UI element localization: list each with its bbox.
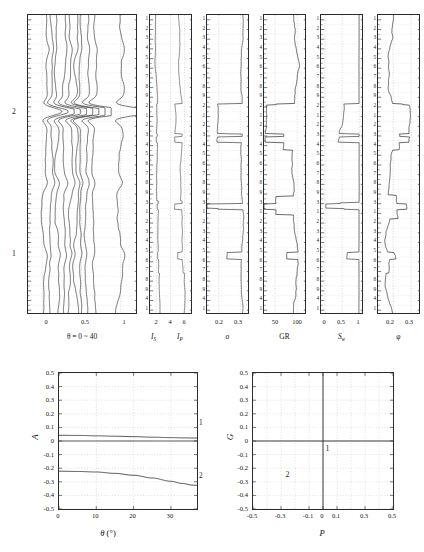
depth-tick-label: 9 xyxy=(145,190,148,195)
crossplot-annotation-2: 2 xyxy=(286,470,290,479)
sw-xtick-0: 0 xyxy=(322,318,325,325)
avo-amplitude-y-tick-label: 0.2 xyxy=(28,409,54,416)
depth-tick-label: 9 xyxy=(145,94,148,99)
depth-tick-label: 5 xyxy=(373,55,376,60)
depth-tick-label: 4 xyxy=(316,297,319,302)
porosity-curve xyxy=(378,15,420,314)
gamma-ray-track[interactable] xyxy=(263,14,306,314)
depth-tick-label: 8 xyxy=(373,278,376,283)
depth-tick-label: 2 xyxy=(202,26,205,31)
depth-tick-label: 7 xyxy=(316,74,319,79)
depth-tick-label: 9 xyxy=(202,190,205,195)
depth-tick-label: 6 xyxy=(259,161,262,166)
poisson-ratio-plot-box xyxy=(206,14,249,314)
depth-tick-label: 2 xyxy=(259,123,262,128)
depth-tick-label: 4 xyxy=(145,142,148,147)
depth-tick-label: 3 xyxy=(373,36,376,41)
depth-tick-label: 2 xyxy=(145,103,148,108)
depth-tick-label: 4 xyxy=(259,45,262,50)
depth-tick-label: 8 xyxy=(316,278,319,283)
imp-xtick-2: 2 xyxy=(154,318,157,325)
depth-tick-label: 2 xyxy=(316,103,319,108)
avo-amplitude-y-axis-title: A xyxy=(30,434,40,440)
depth-tick-label: 6 xyxy=(373,258,376,263)
depth-tick-label: 7 xyxy=(373,268,376,273)
crossplot-y-axis-title: G xyxy=(225,434,235,441)
intercept-gradient-crossplot[interactable]: -0.5-0.4-0.3-0.2-0.100.10.20.30.40.5 -0.… xyxy=(212,362,424,552)
depth-tick-label: 5 xyxy=(259,152,262,157)
depth-tick-label: 8 xyxy=(373,181,376,186)
poisson-ratio-track[interactable] xyxy=(206,14,249,314)
depth-tick-label: 3 xyxy=(259,132,262,137)
crossplot-x-tick-label: -0.5 xyxy=(247,512,257,519)
depth-tick-label: 4 xyxy=(373,142,376,147)
gamma-ray-plot-box xyxy=(263,14,306,314)
depth-tick-label: 5 xyxy=(202,152,205,157)
depth-tick-label: 6 xyxy=(202,258,205,263)
depth-tick-label: 4 xyxy=(316,142,319,147)
depth-tick-label: 6 xyxy=(259,258,262,263)
depth-tick-label: 2 xyxy=(373,123,376,128)
depth-tick-label: 1 xyxy=(259,210,262,215)
gr-xtick-50: 50 xyxy=(272,318,278,325)
depth-tick-label: 3 xyxy=(145,200,148,205)
angle-gather-track[interactable] xyxy=(27,14,137,314)
gather-xtick-2: 1 xyxy=(122,318,125,325)
depth-tick-label: 4 xyxy=(202,45,205,50)
depth-tick-label: 3 xyxy=(202,132,205,137)
sw-xtick-1: 1 xyxy=(356,318,359,325)
avo-amplitude-x-axis-title: θ (°) xyxy=(100,528,116,538)
depth-tick-label: 2 xyxy=(373,26,376,31)
depth-tick-label: 7 xyxy=(145,268,148,273)
depth-tick-label: 4 xyxy=(145,297,148,302)
impedance-x-tick-labels: 2 4 6 xyxy=(149,318,192,328)
angle-gather-plot-box xyxy=(27,14,137,314)
depth-tick-label: 2 xyxy=(259,219,262,224)
depth-tick-label: 3 xyxy=(202,200,205,205)
impedance-track[interactable] xyxy=(149,14,192,314)
depth-tick-label: 2 xyxy=(316,123,319,128)
sw-xtick-05: 0.5 xyxy=(337,318,345,325)
depth-labels-sigma: 1234567892123456789312345678941 xyxy=(196,14,205,314)
angle-gather-caption-text: θ = 0 ~ 40 xyxy=(67,332,97,341)
depth-tick-label: 9 xyxy=(373,287,376,292)
depth-tick-label: 5 xyxy=(145,152,148,157)
depth-tick-label: 1 xyxy=(259,113,262,118)
depth-tick-label: 3 xyxy=(373,229,376,234)
avo-amplitude-x-tick-label: 20 xyxy=(129,512,136,519)
crossplot-y-tick-label: -0.2 xyxy=(222,464,248,471)
phi-xtick-03: 0.3 xyxy=(405,318,413,325)
avo-amplitude-x-tick-label: 0 xyxy=(56,512,59,519)
depth-tick-label: 3 xyxy=(373,132,376,137)
crossplot-x-tick-label: 0 xyxy=(320,512,323,519)
impedance-curves xyxy=(150,15,192,314)
depth-tick-label: 9 xyxy=(316,94,319,99)
avo-amplitude-y-tick-label: 0.3 xyxy=(28,396,54,403)
water-saturation-track[interactable] xyxy=(320,14,363,314)
depth-tick-label: 3 xyxy=(202,36,205,41)
phi-caption-text: φ xyxy=(396,332,400,341)
depth-tick-label: 4 xyxy=(259,142,262,147)
depth-tick-label: 8 xyxy=(373,84,376,89)
depth-tick-label: 2 xyxy=(202,219,205,224)
depth-tick-label: 6 xyxy=(145,161,148,166)
depth-tick-label: 6 xyxy=(316,65,319,70)
depth-tick-label: 5 xyxy=(316,55,319,60)
depth-tick-label: 9 xyxy=(259,287,262,292)
depth-tick-label: 1 xyxy=(202,113,205,118)
depth-tick-label: 9 xyxy=(316,190,319,195)
gr-caption-text: GR xyxy=(279,332,289,341)
avo-amplitude-y-tick-label: -0.1 xyxy=(28,450,54,457)
porosity-track[interactable] xyxy=(377,14,420,314)
crossplot-y-tick-label: -0.4 xyxy=(222,491,248,498)
depth-tick-label: 3 xyxy=(316,229,319,234)
avo-amplitude-chart[interactable]: -0.5-0.4-0.3-0.2-0.100.10.20.30.40.5 010… xyxy=(0,362,212,552)
depth-tick-label: 4 xyxy=(259,297,262,302)
depth-tick-label: 8 xyxy=(202,278,205,283)
depth-tick-label: 7 xyxy=(259,171,262,176)
crossplot-y-tick-label: 0.1 xyxy=(222,423,248,430)
depth-tick-label: 2 xyxy=(316,26,319,31)
sigma-xtick-03: 0.3 xyxy=(234,318,242,325)
depth-tick-label: 2 xyxy=(373,103,376,108)
depth-tick-label: 2 xyxy=(145,219,148,224)
